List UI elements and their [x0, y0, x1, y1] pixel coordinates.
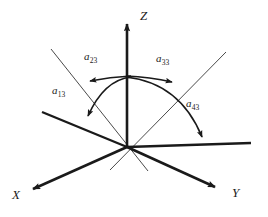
diagram-canvas — [0, 0, 268, 217]
a13-base: a — [52, 84, 58, 96]
x-axis-label: X — [12, 188, 20, 201]
arc-a33 — [126, 76, 172, 82]
z-axis-label: Z — [140, 9, 147, 22]
a33-subscript: 33 — [162, 58, 170, 67]
arc-a13 — [88, 77, 131, 116]
angle-label-a13: a13 — [52, 85, 65, 96]
x-axis — [33, 147, 127, 189]
angle-label-a33: a33 — [156, 53, 169, 64]
direction-angle-diagram: Z X Y a23 a33 a13 a43 — [0, 0, 268, 217]
y-axis-label: Y — [232, 186, 239, 199]
y-axis — [127, 147, 215, 187]
a43-subscript: 43 — [192, 103, 200, 112]
thin-line-upper-left — [51, 49, 148, 171]
angle-label-a23: a23 — [84, 51, 97, 62]
a33-base: a — [156, 52, 162, 64]
horizontal-reference-line — [127, 143, 251, 147]
left-oblique-line — [42, 112, 127, 147]
angle-label-a43: a43 — [186, 98, 199, 109]
a13-subscript: 13 — [58, 90, 66, 99]
a43-base: a — [186, 97, 192, 109]
a23-base: a — [84, 50, 90, 62]
a23-subscript: 23 — [90, 56, 98, 65]
